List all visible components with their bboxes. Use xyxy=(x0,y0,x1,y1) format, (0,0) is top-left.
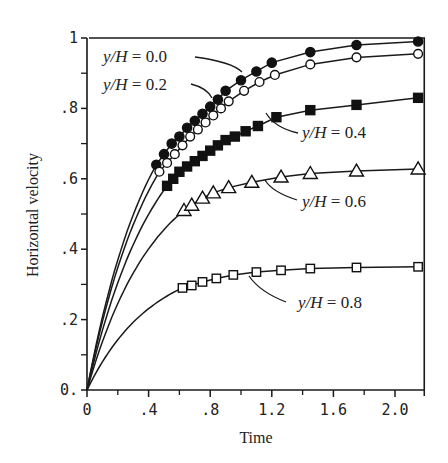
open-circle-marker xyxy=(186,132,195,141)
open-square-marker xyxy=(352,263,360,271)
open-circle-marker xyxy=(155,167,164,176)
series-label: y/H = 0.6 xyxy=(300,192,366,211)
curve-04 xyxy=(87,98,418,390)
filled-circle-marker xyxy=(414,37,423,46)
filled-circle-marker xyxy=(221,86,230,95)
filled-circle-marker xyxy=(190,116,199,125)
y-tick-label: .8 xyxy=(60,99,78,117)
y-tick-label: 1 xyxy=(69,29,78,47)
filled-circle-marker xyxy=(167,139,176,148)
leader-line xyxy=(191,84,212,98)
open-square-marker xyxy=(212,274,220,282)
filled-square-marker xyxy=(306,106,315,115)
filled-square-marker xyxy=(253,122,262,131)
filled-square-marker xyxy=(221,136,230,145)
open-circle-marker xyxy=(201,118,210,127)
filled-circle-marker xyxy=(183,123,192,132)
y-tick-label: .2 xyxy=(60,311,78,329)
filled-circle-marker xyxy=(236,76,245,85)
y-tick-label: .4 xyxy=(60,240,78,258)
filled-circle-marker xyxy=(252,67,261,76)
y-tick-label: 0. xyxy=(60,381,78,399)
series-label: y/H = 0.8 xyxy=(296,293,362,312)
filled-circle-marker xyxy=(267,58,276,67)
filled-square-marker xyxy=(352,100,361,109)
filled-square-marker xyxy=(272,113,281,122)
series-label: y/H = 0.2 xyxy=(101,75,167,94)
leader-line xyxy=(265,180,297,200)
open-square-marker xyxy=(198,278,206,286)
series-label: y/H = 0.0 xyxy=(101,47,167,66)
open-circle-marker xyxy=(414,49,423,58)
filled-circle-marker xyxy=(306,47,315,56)
x-tick-label: 1.6 xyxy=(320,401,347,419)
open-circle-marker xyxy=(163,159,172,168)
filled-circle-marker xyxy=(206,102,215,111)
leader-line xyxy=(249,276,286,302)
open-circle-marker xyxy=(255,78,264,87)
x-tick-label: 0 xyxy=(82,401,91,419)
open-circle-marker xyxy=(193,125,202,134)
open-circle-marker xyxy=(170,150,179,159)
series-label: y/H = 0.4 xyxy=(300,123,366,142)
x-tick-label: 2.0 xyxy=(381,401,408,419)
filled-square-marker xyxy=(414,93,423,102)
filled-circle-marker xyxy=(198,109,207,118)
open-circle-marker xyxy=(224,97,233,106)
x-axis-title: Time xyxy=(239,429,272,446)
open-circle-marker xyxy=(352,53,361,62)
open-circle-marker xyxy=(240,86,249,95)
filled-square-marker xyxy=(241,127,250,136)
open-square-marker xyxy=(229,271,237,279)
filled-circle-marker xyxy=(159,150,168,159)
filled-circle-marker xyxy=(213,95,222,104)
y-axis-title: Horizontal velocity xyxy=(24,153,42,277)
x-tick-label: 1.2 xyxy=(258,401,285,419)
open-square-marker xyxy=(188,281,196,289)
open-square-marker xyxy=(252,268,260,276)
filled-circle-marker xyxy=(352,40,361,49)
curve-08 xyxy=(87,267,418,390)
x-tick-label: .4 xyxy=(140,401,158,419)
filled-square-marker xyxy=(230,132,239,141)
open-square-marker xyxy=(414,263,422,271)
open-circle-marker xyxy=(306,60,315,69)
open-triangle-marker xyxy=(411,162,425,174)
open-triangle-marker xyxy=(350,164,364,176)
x-tick-label: .8 xyxy=(201,401,219,419)
marker-layer xyxy=(152,37,425,292)
open-square-marker xyxy=(277,266,285,274)
filled-circle-marker xyxy=(175,132,184,141)
open-circle-marker xyxy=(217,104,226,113)
open-circle-marker xyxy=(270,71,279,80)
open-circle-marker xyxy=(178,141,187,150)
open-circle-marker xyxy=(209,111,218,120)
y-tick-label: .6 xyxy=(60,170,78,188)
open-square-marker xyxy=(306,264,314,272)
open-square-marker xyxy=(178,284,186,292)
curve-06 xyxy=(87,169,418,390)
leader-line xyxy=(195,57,242,72)
velocity-chart: 0..2.4.6.810.4.81.21.62.0 y/H = 0.0y/H =… xyxy=(0,0,448,463)
